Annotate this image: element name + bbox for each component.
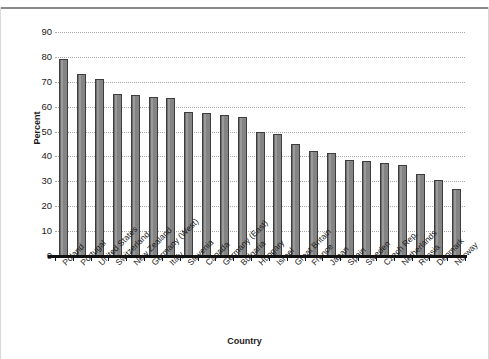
bar bbox=[77, 74, 86, 256]
bar bbox=[291, 144, 300, 256]
bar bbox=[220, 115, 229, 256]
y-tick-label: 60 bbox=[12, 102, 52, 112]
bar bbox=[59, 59, 68, 256]
y-tick-label: 70 bbox=[12, 77, 52, 87]
bar bbox=[362, 161, 371, 256]
y-tick-label: 40 bbox=[12, 151, 52, 161]
y-tick-label: 10 bbox=[12, 226, 52, 236]
y-tick-label: 30 bbox=[12, 176, 52, 186]
y-tick-label: 80 bbox=[12, 52, 52, 62]
x-axis-category-labels: PolandPortugalUnited StatesSwitzerlandNe… bbox=[55, 261, 465, 331]
top-divider-rule bbox=[0, 7, 489, 9]
bar bbox=[327, 153, 336, 256]
y-tick-label: 20 bbox=[12, 201, 52, 211]
y-tick-label: 50 bbox=[12, 127, 52, 137]
bar bbox=[95, 79, 104, 256]
bar bbox=[202, 113, 211, 256]
y-axis-tick-labels: 0102030405060708090 bbox=[8, 0, 52, 359]
y-tick-label: 0 bbox=[12, 251, 52, 261]
chart-figure: Percent 0102030405060708090 PolandPortug… bbox=[0, 0, 489, 359]
bar bbox=[149, 97, 158, 256]
bar bbox=[345, 160, 354, 256]
x-axis-title: Country bbox=[0, 336, 489, 346]
y-tick-label: 90 bbox=[12, 27, 52, 37]
bar bbox=[113, 94, 122, 256]
left-border-rule bbox=[0, 7, 1, 359]
